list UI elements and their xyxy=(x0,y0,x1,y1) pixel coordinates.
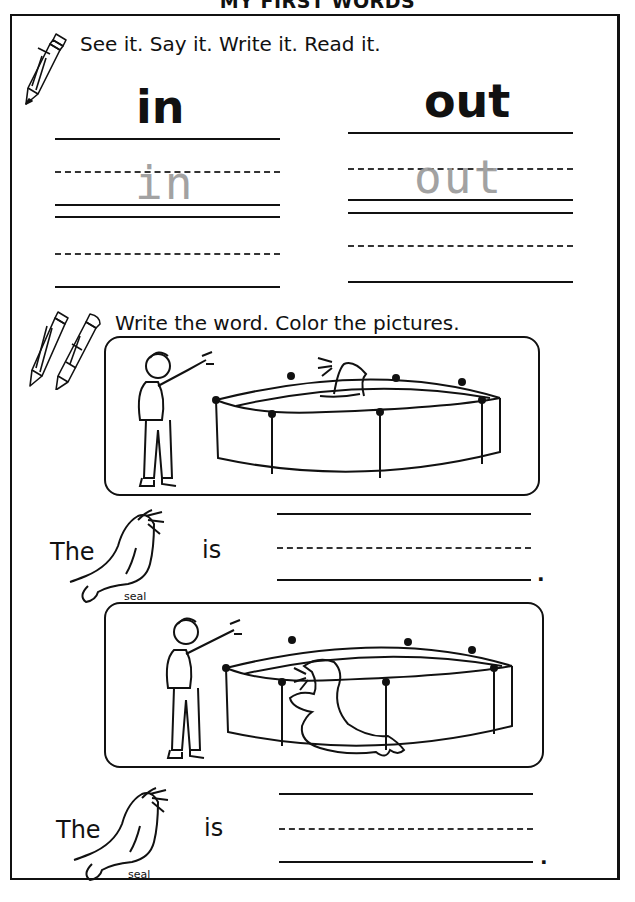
trace-word-out: out xyxy=(414,150,503,204)
boy-and-seal-in-pool-illustration xyxy=(106,338,538,494)
answer-line-2-base[interactable] xyxy=(279,861,533,863)
answer-line-1-base[interactable] xyxy=(277,579,531,581)
writing-line-top-2[interactable] xyxy=(55,216,280,218)
page-title: MY FIRST WORDS xyxy=(0,0,635,12)
answer-line-1-top[interactable] xyxy=(277,513,531,515)
writing-line-base-2[interactable] xyxy=(55,286,280,288)
picture-seal-out-of-pool[interactable] xyxy=(104,602,544,768)
writing-line-base[interactable] xyxy=(55,204,280,206)
writing-line-top xyxy=(55,138,280,140)
writing-line-top xyxy=(348,132,573,134)
sentence-2-period: . xyxy=(540,845,548,869)
seal-label: seal xyxy=(128,868,150,881)
sentence-1-period: . xyxy=(537,562,545,586)
writing-line-base[interactable] xyxy=(348,199,573,201)
pencil-icon xyxy=(20,28,72,108)
writing-line-mid-2[interactable] xyxy=(348,245,573,247)
answer-line-1-mid[interactable] xyxy=(277,547,531,549)
answer-line-2-top[interactable] xyxy=(279,793,533,795)
seal-icon xyxy=(70,782,196,882)
writing-line-base-2[interactable] xyxy=(348,281,573,283)
boy-and-seal-out-of-pool-illustration xyxy=(106,604,542,766)
picture-seal-in-pool[interactable] xyxy=(104,336,540,496)
word-in: in xyxy=(136,80,185,134)
pencil-and-crayon-icon xyxy=(22,306,106,390)
trace-word-in: in xyxy=(135,156,194,210)
sentence-1-is: is xyxy=(202,536,221,564)
writing-line-mid-2[interactable] xyxy=(55,253,280,255)
seal-icon xyxy=(66,504,192,604)
sentence-2-is: is xyxy=(204,814,223,842)
writing-line-top-2[interactable] xyxy=(348,212,573,214)
instruction-see-say-write-read: See it. Say it. Write it. Read it. xyxy=(80,32,381,56)
answer-line-2-mid[interactable] xyxy=(279,828,533,830)
instruction-write-and-color: Write the word. Color the pictures. xyxy=(115,311,460,335)
word-out: out xyxy=(424,74,510,128)
